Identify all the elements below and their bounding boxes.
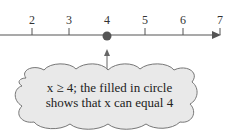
filled-circle-icon	[103, 32, 112, 41]
number-line-diagram: 2 3 4 5 6 7	[0, 0, 225, 140]
callout-text: x ≥ 4; the filled in circle shows that x…	[22, 80, 197, 110]
arrowhead-up-icon	[104, 49, 110, 56]
tick-label-6: 6	[180, 13, 186, 27]
tick-marks	[32, 28, 220, 35]
callout-line-2: shows that x can equal 4	[22, 95, 197, 110]
tick-label-4: 4	[104, 13, 110, 27]
tick-label-5: 5	[142, 13, 148, 27]
tick-label-3: 3	[66, 13, 72, 27]
tick-label-2: 2	[29, 13, 35, 27]
callout-line-1: x ≥ 4; the filled in circle	[22, 80, 197, 95]
tick-label-7: 7	[217, 13, 223, 27]
